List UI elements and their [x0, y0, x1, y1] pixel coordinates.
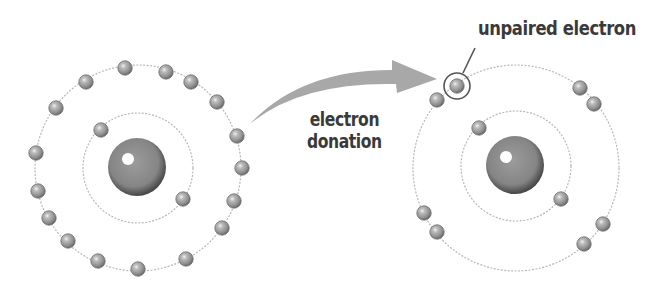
outer-electron [42, 211, 56, 225]
nucleus-highlight [122, 153, 134, 165]
outer-electron [230, 129, 244, 143]
outer-electron [49, 101, 63, 115]
outer-electron [587, 97, 601, 111]
outer-electron [430, 93, 444, 107]
outer-electron [79, 75, 93, 89]
donor-atom [29, 61, 249, 276]
unpaired-electron-label: unpaired electron [478, 16, 636, 40]
electron-donation-label: electron donation [307, 108, 382, 152]
outer-electron [61, 234, 75, 248]
outer-electron [179, 252, 193, 266]
outer-electron [210, 95, 224, 109]
outer-electron [235, 161, 249, 175]
label-line-2: donation [307, 130, 382, 152]
outer-electron [159, 65, 173, 79]
leader-line [463, 48, 475, 73]
outer-electron [573, 81, 587, 95]
label-line-1: electron [307, 108, 382, 130]
outer-electron [215, 221, 229, 235]
inner-electron [94, 123, 108, 137]
inner-electron [554, 192, 568, 206]
nucleus-highlight [500, 151, 512, 163]
unpaired-electron [450, 79, 464, 93]
outer-electron [91, 254, 105, 268]
outer-electron [31, 184, 45, 198]
acceptor-atom [413, 65, 619, 271]
outer-electron [596, 217, 610, 231]
diagram-stage: electron donation unpaired electron [0, 0, 672, 290]
outer-electron [227, 194, 241, 208]
outer-electron [430, 225, 444, 239]
outer-electron [118, 61, 132, 75]
outer-electron [577, 237, 591, 251]
nucleus [108, 138, 166, 196]
nucleus [486, 136, 544, 194]
outer-electron [29, 146, 43, 160]
inner-electron [472, 121, 486, 135]
outer-electron [184, 75, 198, 89]
outer-electron [417, 206, 431, 220]
outer-electron [131, 262, 145, 276]
inner-electron [176, 192, 190, 206]
